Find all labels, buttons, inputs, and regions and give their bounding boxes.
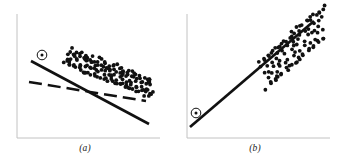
panel-b: (b): [170, 0, 340, 155]
panel-b-axes: [187, 14, 330, 138]
figure-container: (a) (b): [0, 0, 340, 155]
panel-b-caption: (b): [170, 143, 340, 153]
panel-b-plot: [170, 0, 340, 155]
panel-a: (a): [0, 0, 170, 155]
panel-b-fit-line: [190, 21, 314, 127]
panel-a-caption: (a): [0, 143, 170, 153]
panel-b-influential-outlier: [191, 108, 201, 118]
panel-a-plot: [0, 0, 170, 155]
panel-a-influential-outlier: [37, 50, 47, 60]
panel-b-scatter-points: [257, 4, 327, 92]
